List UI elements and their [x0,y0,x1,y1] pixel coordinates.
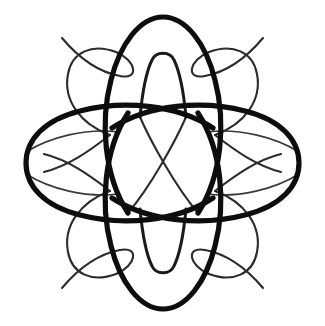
flourish-ornament-artwork [0,0,325,326]
ornament-canvas [0,0,325,326]
